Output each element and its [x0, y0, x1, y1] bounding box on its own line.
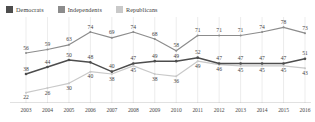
data-point[interactable] — [68, 59, 71, 62]
data-point-label: 45 — [131, 67, 137, 73]
data-point-label: 63 — [66, 36, 72, 42]
x-axis-label-2012: 2012 — [214, 107, 225, 113]
data-point-label: 73 — [302, 25, 308, 31]
data-point[interactable] — [111, 70, 114, 73]
x-axis-label-2013: 2013 — [235, 107, 246, 113]
data-point-label: 74 — [88, 24, 94, 30]
data-point[interactable] — [283, 26, 285, 28]
data-point-label: 48 — [88, 54, 94, 60]
legend-item-republicans[interactable]: Republicans — [116, 6, 158, 13]
data-point-label: 43 — [302, 70, 308, 76]
data-point-label: 78 — [281, 19, 287, 25]
data-point[interactable] — [89, 31, 91, 33]
data-point[interactable] — [261, 62, 264, 65]
data-point[interactable] — [25, 73, 28, 76]
data-point[interactable] — [46, 66, 49, 69]
data-point-label: 47 — [238, 55, 244, 61]
data-point[interactable] — [304, 58, 307, 61]
legend-swatch-republicans — [116, 6, 123, 13]
plot-area: 2226304038453836494645454543565963746974… — [0, 17, 315, 103]
data-point-label: 38 — [152, 76, 158, 82]
x-axis-label-2016: 2016 — [300, 107, 311, 113]
data-point-label: 47 — [259, 55, 265, 61]
data-point[interactable] — [218, 62, 221, 65]
data-point-label: 49 — [173, 53, 179, 59]
data-point[interactable] — [132, 62, 135, 65]
data-point[interactable] — [111, 37, 113, 39]
data-point-label: 30 — [66, 85, 72, 91]
legend-label-democrats: Democrats — [16, 6, 44, 13]
data-point-label: 40 — [109, 63, 115, 69]
data-point[interactable] — [175, 50, 177, 52]
data-point-label: 46 — [216, 66, 222, 72]
data-point-label: 74 — [131, 24, 137, 30]
data-point[interactable] — [25, 52, 27, 54]
data-point-label: 71 — [195, 27, 201, 33]
data-point-label: 40 — [88, 73, 94, 79]
data-point-label: 22 — [23, 94, 29, 100]
data-point[interactable] — [46, 49, 48, 51]
data-point-label: 52 — [195, 49, 201, 55]
x-axis-labels: 2003200420052006200720082009201020112012… — [0, 107, 315, 119]
data-point-label: 69 — [109, 29, 115, 35]
data-point-label: 56 — [23, 45, 29, 51]
data-point-label: 38 — [23, 66, 29, 72]
data-point[interactable] — [132, 31, 134, 33]
legend-item-independents[interactable]: Independents — [58, 6, 102, 13]
data-point[interactable] — [240, 35, 242, 37]
x-axis-label-2007: 2007 — [106, 107, 117, 113]
data-point-label: 50 — [66, 52, 72, 58]
chart-legend: Democrats Independents Republicans — [6, 4, 158, 15]
x-axis-label-2005: 2005 — [64, 107, 75, 113]
data-point-label: 74 — [259, 24, 265, 30]
legend-label-republicans: Republicans — [126, 6, 158, 13]
x-axis-label-2010: 2010 — [171, 107, 182, 113]
data-point[interactable] — [196, 56, 199, 59]
data-point[interactable] — [282, 62, 285, 65]
data-point-label: 49 — [152, 53, 158, 59]
data-point[interactable] — [89, 61, 92, 64]
x-axis-label-2008: 2008 — [128, 107, 139, 113]
data-point[interactable] — [304, 32, 306, 34]
data-point-label: 47 — [216, 55, 222, 61]
x-axis-label-2009: 2009 — [149, 107, 160, 113]
x-axis-label-2004: 2004 — [42, 107, 53, 113]
data-point-label: 71 — [216, 27, 222, 33]
data-point[interactable] — [218, 35, 220, 37]
data-point[interactable] — [175, 60, 178, 63]
data-point-label: 47 — [281, 55, 287, 61]
data-point-label: 68 — [152, 31, 158, 37]
x-axis-label-2011: 2011 — [192, 107, 203, 113]
x-axis-label-2014: 2014 — [257, 107, 268, 113]
x-axis-label-2006: 2006 — [85, 107, 96, 113]
data-point[interactable] — [68, 44, 70, 46]
gridlines — [10, 17, 311, 103]
data-point[interactable] — [154, 38, 156, 40]
legend-swatch-independents — [58, 6, 65, 13]
data-point[interactable] — [239, 62, 242, 65]
data-point-label: 58 — [173, 42, 179, 48]
data-point-label: 71 — [238, 27, 244, 33]
legend-label-independents: Independents — [68, 6, 102, 13]
data-point-label: 45 — [238, 67, 244, 73]
data-point-label: 59 — [45, 41, 51, 47]
data-point[interactable] — [153, 60, 156, 63]
data-point-label: 45 — [259, 67, 265, 73]
data-point-label: 36 — [173, 78, 179, 84]
x-axis-label-2003: 2003 — [21, 107, 32, 113]
data-point-label: 26 — [45, 90, 51, 96]
data-point-label: 51 — [302, 50, 308, 56]
plot-svg: 2226304038453836494645454543565963746974… — [0, 17, 315, 103]
data-point-label: 38 — [109, 76, 115, 82]
data-point-label: 47 — [131, 55, 137, 61]
legend-swatch-democrats — [6, 6, 13, 13]
x-axis-label-2015: 2015 — [278, 107, 289, 113]
data-point-label: 49 — [195, 63, 201, 69]
data-point[interactable] — [197, 35, 199, 37]
data-point-label: 44 — [45, 59, 51, 65]
data-point[interactable] — [261, 31, 263, 33]
line-chart: Democrats Independents Republicans 22263… — [0, 0, 315, 122]
legend-item-democrats[interactable]: Democrats — [6, 6, 44, 13]
data-point-label: 45 — [281, 67, 287, 73]
